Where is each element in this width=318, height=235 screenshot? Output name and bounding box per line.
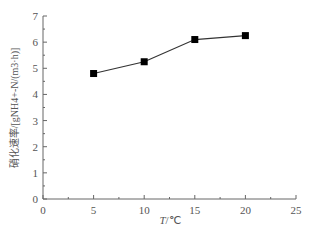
x-tick-label: 5 <box>91 204 97 216</box>
x-tick-label: 0 <box>40 204 46 216</box>
data-point-marker <box>191 36 198 43</box>
x-tick-label: 10 <box>139 204 151 216</box>
y-tick-label: 4 <box>33 88 39 100</box>
y-tick-label: 5 <box>33 62 39 74</box>
x-tick-label: 25 <box>291 204 303 216</box>
x-tick-label: 15 <box>189 204 201 216</box>
y-axis-label: 硝化速率/[gNH4+-N/(m3·h)] <box>8 48 21 169</box>
y-tick-label: 6 <box>33 36 39 48</box>
line-chart: 051015202501234567 T/℃ 硝化速率/[gNH4+-N/(m3… <box>0 0 318 235</box>
x-axis-label: T/℃ <box>159 214 180 226</box>
data-point-marker <box>242 32 249 39</box>
series-line <box>94 36 246 74</box>
tick-labels: 051015202501234567 <box>33 10 303 216</box>
data-point-marker <box>141 58 148 65</box>
x-tick-label: 20 <box>240 204 252 216</box>
y-tick-label: 1 <box>33 167 39 179</box>
y-tick-label: 7 <box>33 10 39 22</box>
y-tick-label: 3 <box>33 115 39 127</box>
y-tick-label: 2 <box>33 141 39 153</box>
data-point-marker <box>90 70 97 77</box>
axes <box>43 16 296 199</box>
data-series <box>90 32 249 77</box>
y-tick-label: 0 <box>33 193 39 205</box>
